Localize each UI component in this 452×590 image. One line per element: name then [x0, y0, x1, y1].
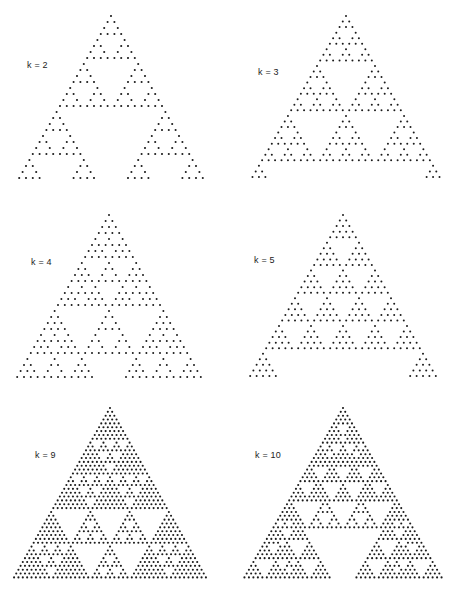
pattern-k5: [249, 214, 437, 377]
pattern-k4: [16, 214, 202, 378]
pascal-triangle-figure: k = 2 k = 3 k = 4 k = 5 k = 9 k = 10: [0, 0, 452, 590]
pattern-k10: [243, 407, 442, 579]
panel-label-k10: k = 10: [255, 450, 281, 460]
pattern-k3: [251, 15, 440, 178]
pascal-dot-patterns: [0, 0, 452, 590]
panel-label-k2: k = 2: [27, 60, 48, 70]
panel-label-k5: k = 5: [254, 255, 275, 265]
panel-label-k3: k = 3: [258, 67, 279, 77]
pattern-k2: [18, 15, 204, 179]
panel-label-k4: k = 4: [31, 257, 52, 267]
pattern-k9: [13, 407, 207, 579]
panel-label-k9: k = 9: [35, 450, 56, 460]
